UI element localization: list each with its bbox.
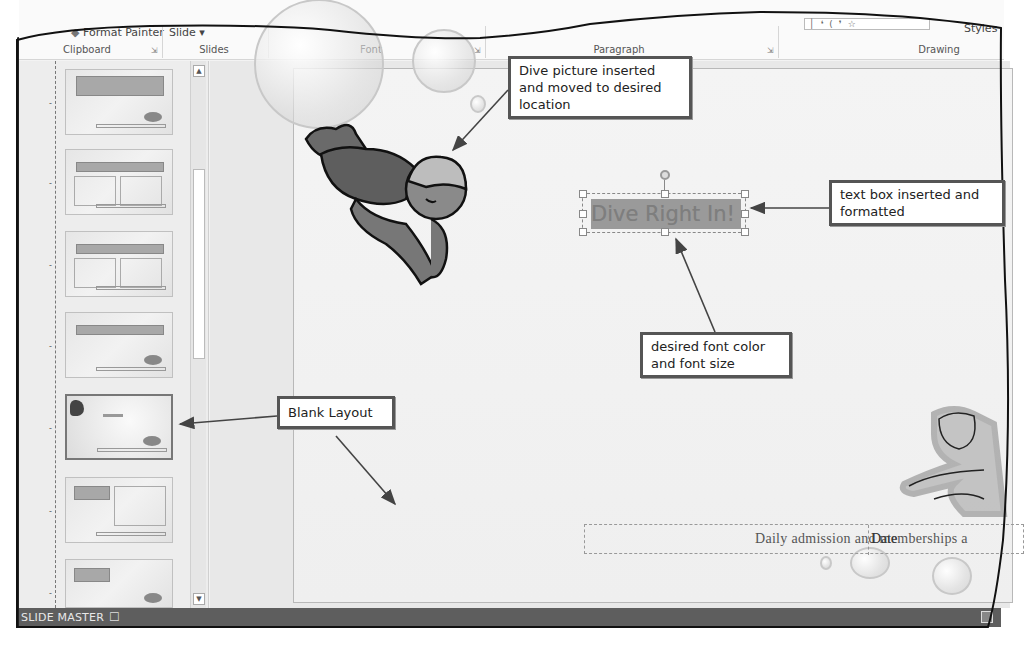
callout-font-color: desired font color and font size bbox=[640, 332, 792, 378]
resize-handle-nw[interactable] bbox=[579, 190, 587, 198]
quick-styles-button[interactable]: Styles bbox=[964, 22, 997, 35]
thumb-title-placeholder bbox=[76, 244, 164, 254]
thumb-connector: - bbox=[49, 589, 52, 598]
resize-handle-e[interactable] bbox=[741, 210, 749, 218]
master-hierarchy-line bbox=[55, 61, 56, 608]
scroll-thumb[interactable] bbox=[193, 169, 205, 359]
layout-thumbnail-comparison[interactable] bbox=[65, 231, 173, 297]
slide-master-thumbnail-pane: - - - - - - - ▲ ▼ bbox=[19, 61, 209, 608]
resize-handle-s[interactable] bbox=[661, 228, 669, 236]
thumb-footer-placeholder bbox=[96, 367, 166, 371]
view-mode-label: SLIDE MASTER bbox=[21, 611, 104, 624]
resize-handle-sw[interactable] bbox=[579, 228, 587, 236]
thumb-title-placeholder bbox=[76, 76, 164, 96]
thumb-footer-placeholder bbox=[96, 532, 166, 536]
layout-thumbnail-content-with-caption[interactable] bbox=[65, 477, 173, 543]
thumb-swimmer-graphic bbox=[144, 112, 162, 122]
group-label-slides: Slides bbox=[184, 44, 244, 55]
paintbrush-icon: ◆ bbox=[71, 26, 79, 39]
thumb-title-placeholder bbox=[76, 162, 164, 172]
callout-blank-layout: Blank Layout bbox=[277, 396, 395, 429]
thumb-swimmer-graphic bbox=[143, 436, 161, 446]
resize-handle-ne[interactable] bbox=[741, 190, 749, 198]
date-placeholder-border bbox=[868, 525, 869, 555]
callout-text-box: text box inserted and formatted bbox=[829, 180, 1005, 226]
thumb-content-placeholder bbox=[114, 486, 166, 526]
ribbon-separator bbox=[162, 26, 163, 58]
thumb-footer-placeholder bbox=[96, 204, 166, 208]
thumb-connector: - bbox=[49, 342, 52, 351]
thumb-content-placeholder bbox=[120, 258, 162, 288]
thumb-content-placeholder bbox=[74, 176, 116, 206]
scroll-up-button[interactable]: ▲ bbox=[193, 65, 205, 77]
thumb-connector: - bbox=[49, 261, 52, 270]
layout-thumbnail-blank[interactable] bbox=[65, 394, 173, 460]
layout-thumbnail-title-only[interactable] bbox=[65, 312, 173, 378]
scroll-down-button[interactable]: ▼ bbox=[193, 593, 205, 605]
group-label-clipboard: Clipboard bbox=[57, 44, 117, 55]
thumb-connector: - bbox=[49, 507, 52, 516]
layout-thumbnail-picture-with-caption[interactable] bbox=[65, 559, 173, 608]
bubble-graphic bbox=[820, 556, 832, 570]
rotate-handle[interactable] bbox=[660, 170, 670, 180]
spell-check-icon[interactable]: ☐ bbox=[109, 610, 120, 624]
thumb-content-placeholder bbox=[120, 176, 162, 206]
slide-editing-area: Dive Right In! Daily admission and membe… bbox=[210, 61, 1010, 608]
thumb-textbox bbox=[103, 414, 123, 417]
clipboard-launcher-icon[interactable]: ⇲ bbox=[151, 46, 158, 55]
footer-placeholder[interactable]: Daily admission and memberships a Date bbox=[584, 524, 1024, 554]
ribbon: ◆ Format Painter Slide ▾ Styles Clipboar… bbox=[19, 0, 1004, 60]
footer-text: Daily admission and memberships a bbox=[755, 531, 968, 547]
thumb-title-placeholder bbox=[74, 486, 110, 500]
thumb-swimmer-graphic bbox=[144, 593, 162, 603]
layout-thumbnail-title-slide[interactable] bbox=[65, 69, 173, 135]
bubble-graphic bbox=[412, 29, 476, 93]
group-label-drawing: Drawing bbox=[909, 44, 969, 55]
thumb-footer-placeholder bbox=[96, 286, 166, 290]
format-painter-button[interactable]: ◆ Format Painter bbox=[71, 26, 164, 39]
resize-handle-w[interactable] bbox=[579, 210, 587, 218]
thumb-swimmer-graphic bbox=[144, 355, 162, 365]
thumb-connector: - bbox=[49, 424, 52, 433]
resize-handle-n[interactable] bbox=[661, 190, 669, 198]
ribbon-separator bbox=[485, 26, 486, 58]
ribbon-separator bbox=[778, 26, 779, 58]
new-slide-dropdown[interactable]: Slide ▾ bbox=[169, 26, 205, 39]
thumb-footer-placeholder bbox=[97, 448, 167, 452]
rotate-stem bbox=[664, 180, 665, 190]
layout-thumbnail-two-content[interactable] bbox=[65, 149, 173, 215]
swimmer-picture[interactable] bbox=[894, 404, 1014, 524]
thumbnail-scrollbar[interactable]: ▲ ▼ bbox=[190, 61, 206, 608]
thumb-title-placeholder bbox=[76, 325, 164, 335]
dive-right-in-textbox[interactable]: Dive Right In! bbox=[582, 193, 746, 233]
callout-dive-picture: Dive picture inserted and moved to desir… bbox=[508, 56, 692, 119]
thumb-connector: - bbox=[49, 99, 52, 108]
diver-picture[interactable] bbox=[296, 109, 486, 289]
shapes-gallery[interactable]: │❛(❜☆ bbox=[804, 18, 930, 30]
thumb-title-placeholder bbox=[74, 568, 110, 582]
normal-view-button[interactable] bbox=[981, 611, 993, 623]
status-bar: SLIDE MASTER ☐ bbox=[19, 608, 1001, 627]
thumb-connector: - bbox=[49, 179, 52, 188]
thumb-diver-graphic bbox=[70, 400, 84, 416]
date-placeholder[interactable]: Date bbox=[871, 531, 897, 547]
resize-handle-se[interactable] bbox=[741, 228, 749, 236]
paragraph-launcher-icon[interactable]: ⇲ bbox=[767, 46, 774, 55]
group-label-paragraph: Paragraph bbox=[584, 44, 654, 55]
textbox-text[interactable]: Dive Right In! bbox=[591, 199, 741, 229]
thumb-footer-placeholder bbox=[96, 124, 166, 128]
bubble-graphic bbox=[932, 557, 972, 595]
thumb-content-placeholder bbox=[74, 258, 116, 288]
